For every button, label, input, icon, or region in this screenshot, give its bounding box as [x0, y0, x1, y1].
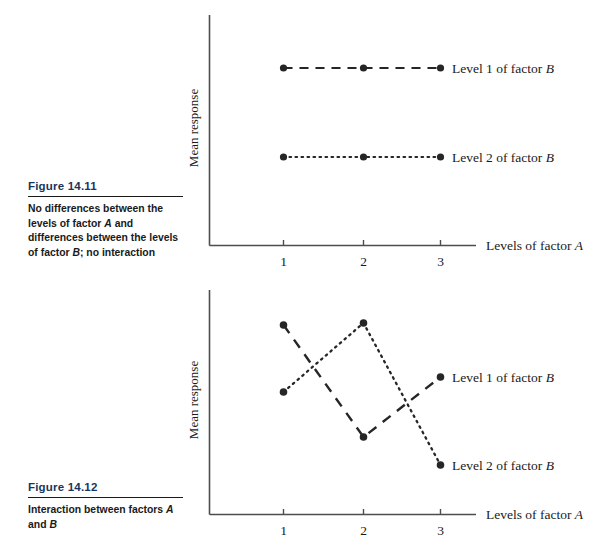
caption-line-3: differences between the levels	[28, 232, 178, 243]
caption-line-4: of factor B; no interaction	[28, 247, 155, 258]
series-level-2-label-top: Level 2 of factor B	[452, 150, 554, 165]
series-level-1-point-2	[360, 433, 368, 441]
x-tick-label-2: 2	[360, 254, 367, 269]
series-level-2-point-2	[360, 319, 368, 327]
x-tick-label-1: 1	[280, 523, 287, 538]
x-axis-title-italic: A	[574, 238, 584, 253]
figure-number-14-11: Figure 14.11	[28, 180, 188, 196]
series-level-2-label-bottom: Level 2 of factor B	[452, 458, 554, 473]
figure-page: 1 2 3 Mean response Levels of factor A L…	[0, 0, 613, 556]
series-level-1-point-1	[280, 64, 287, 71]
series-level-1-point-2	[360, 64, 367, 71]
figure-number-14-12: Figure 14.12	[28, 481, 188, 497]
series-level-1-label-bottom: Level 1 of factor B	[452, 370, 554, 385]
x-axis-title: Levels of factor A	[486, 507, 584, 522]
caption-divider	[28, 196, 183, 197]
figure-caption-14-12: Figure 14.12 Interaction between factors…	[28, 481, 188, 532]
caption-divider	[28, 497, 183, 498]
series-level-1-point-3	[437, 64, 444, 71]
figure-caption-text-14-11: No differences between the levels of fac…	[28, 202, 188, 260]
series-level-1-point-3	[437, 373, 445, 381]
caption-line-2: and B	[28, 519, 57, 530]
caption-line-1: No differences between the	[28, 203, 163, 214]
series-level-2-point-1	[280, 153, 287, 160]
x-tick-label-2: 2	[360, 523, 367, 538]
y-axis-title: Mean response	[186, 361, 201, 440]
x-tick-label-3: 3	[437, 523, 444, 538]
series-level-1-point-1	[280, 321, 288, 329]
figure-caption-text-14-12: Interaction between factors A and B	[28, 503, 188, 532]
series-level-2-point-2	[360, 153, 367, 160]
x-tick-label-3: 3	[437, 254, 444, 269]
series-level-2-point-3	[437, 461, 445, 469]
caption-line-2: levels of factor A and	[28, 218, 133, 229]
series-level-2-point-3	[437, 153, 444, 160]
series-level-1-label-top: Level 1 of factor B	[452, 61, 554, 76]
y-axis-title: Mean response	[186, 89, 201, 168]
caption-line-1: Interaction between factors A	[28, 504, 174, 515]
x-axis-title: Levels of factor A	[486, 238, 584, 253]
series-level-2-point-1	[280, 388, 288, 396]
x-tick-label-1: 1	[280, 254, 287, 269]
figure-caption-14-11: Figure 14.11 No differences between the …	[28, 180, 188, 260]
x-axis-title-prefix: Levels of factor	[486, 238, 575, 253]
